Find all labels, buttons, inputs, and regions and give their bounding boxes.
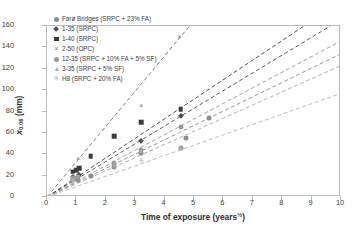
y-tick-label: 120 <box>0 64 14 71</box>
y-tick-label: 0 <box>0 192 14 199</box>
x-tick-mark <box>311 196 312 200</box>
data-point: × <box>139 102 143 109</box>
legend-marker-square-icon <box>52 37 61 42</box>
data-point <box>206 115 211 120</box>
x-tick-mark <box>134 196 135 200</box>
legend-marker-x-icon: × <box>52 46 61 53</box>
x-tick-mark <box>105 196 106 200</box>
legend-item-label: 2-50 (OPC) <box>62 46 94 52</box>
x-tick-mark <box>164 196 165 200</box>
legend-item-label: 12-35 (SRPC + 10% FA + 5% SF) <box>62 56 157 62</box>
x-tick-label: 1 <box>63 199 87 206</box>
x-tick-label: 6 <box>210 199 234 206</box>
x-tick-mark <box>75 196 76 200</box>
y-axis-title-subscript: 0.06 <box>18 118 24 130</box>
data-point <box>89 174 94 179</box>
data-point <box>88 154 93 159</box>
legend-item[interactable]: ×2-50 (OPC) <box>52 44 157 54</box>
y-axis-title-symbol: x <box>14 130 24 135</box>
data-point <box>112 134 117 139</box>
x-tick-mark <box>46 196 47 200</box>
x-tick-mark <box>340 196 341 200</box>
y-axis-title-unit: (mm) <box>14 96 24 119</box>
x-tick-label: 10 <box>328 199 352 206</box>
y-tick-label: 20 <box>0 171 14 178</box>
x-tick-label: 2 <box>93 199 117 206</box>
legend-item[interactable]: 1-40 (SRPC) <box>52 34 157 44</box>
y-axis-title: x0.06 (mm) <box>14 70 24 160</box>
x-axis-title: Time of exposure (years½) <box>46 212 340 222</box>
legend-item[interactable]: ✳H8 (SRPC + 20% FA) <box>52 74 157 84</box>
data-point <box>139 120 144 125</box>
legend-item[interactable]: 1-35 (SRPC) <box>52 24 157 34</box>
data-point <box>178 107 183 112</box>
x-tick-label: 9 <box>299 199 323 206</box>
legend-marker-asterisk-icon: ✳ <box>52 75 61 83</box>
legend-item[interactable]: Farø Bridges (SRPC + 23% FA) <box>52 14 157 24</box>
x-tick-label: 0 <box>34 199 58 206</box>
data-point: ✳ <box>70 177 77 185</box>
data-point: × <box>177 33 181 40</box>
x-tick-label: 5 <box>181 199 205 206</box>
x-tick-label: 4 <box>152 199 176 206</box>
data-point: ✳ <box>138 157 145 165</box>
legend-item-label: 1-40 (SRPC) <box>62 36 98 42</box>
legend-item[interactable]: 3-35 (SRPC + 5% SF) <box>52 64 157 74</box>
legend-marker-diamond-icon <box>52 27 61 31</box>
y-tick-label: 40 <box>0 150 14 157</box>
data-point <box>183 135 188 140</box>
x-tick-label: 8 <box>269 199 293 206</box>
x-tick-mark <box>222 196 223 200</box>
x-tick-mark <box>252 196 253 200</box>
legend-marker-circle-icon <box>52 17 61 22</box>
legend: Farø Bridges (SRPC + 23% FA)1-35 (SRPC)1… <box>52 14 157 84</box>
x-tick-label: 3 <box>122 199 146 206</box>
legend-item-label: Farø Bridges (SRPC + 23% FA) <box>62 16 151 22</box>
y-tick-label: 60 <box>0 128 14 135</box>
y-tick-label: 100 <box>0 85 14 92</box>
data-point: ✳ <box>111 163 118 171</box>
legend-item[interactable]: 12-35 (SRPC + 10% FA + 5% SF) <box>52 54 157 64</box>
legend-item-label: 1-35 (SRPC) <box>62 26 98 32</box>
x-tick-mark <box>281 196 282 200</box>
y-tick-label: 160 <box>0 21 14 28</box>
legend-marker-triangle-icon <box>52 67 61 71</box>
data-point <box>178 124 183 129</box>
y-tick-label: 140 <box>0 43 14 50</box>
y-tick-label: 80 <box>0 107 14 114</box>
data-point <box>77 166 82 171</box>
x-tick-label: 7 <box>240 199 264 206</box>
x-axis-title-tail: ) <box>242 212 245 222</box>
legend-item-label: H8 (SRPC + 20% FA) <box>62 76 123 82</box>
data-point: × <box>76 156 80 163</box>
data-point: ✳ <box>177 146 184 154</box>
data-point <box>139 149 143 153</box>
legend-marker-circle-icon <box>52 57 61 62</box>
legend-item-label: 3-35 (SRPC + 5% SF) <box>62 66 124 72</box>
x-tick-mark <box>193 196 194 200</box>
scatter-chart: x0.06 (mm) Time of exposure (years½) 020… <box>0 0 357 237</box>
x-axis-title-base: Time of exposure (years <box>141 212 237 222</box>
